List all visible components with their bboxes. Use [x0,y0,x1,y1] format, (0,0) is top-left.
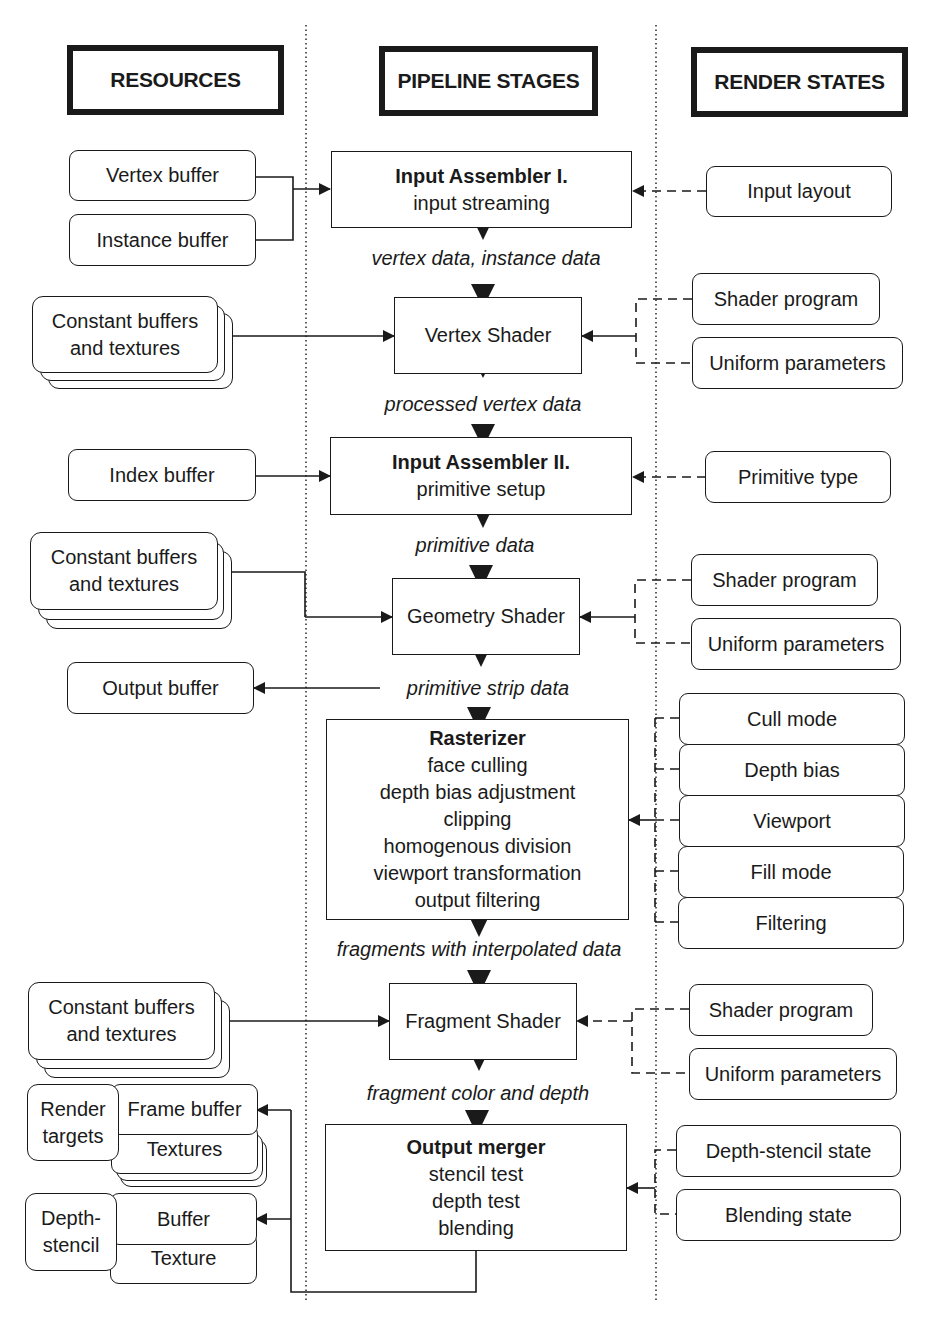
resource-label: Instance buffer [97,227,229,254]
state-label: Uniform parameters [705,1061,882,1088]
resource-label: Output buffer [102,675,218,702]
state-label: Filtering [755,910,826,937]
resource-render-targets: Render targets [27,1084,119,1161]
state-fill-mode: Fill mode [678,846,904,898]
resource-index-buffer: Index buffer [68,449,256,501]
state-label: Depth-stencil state [706,1138,872,1165]
resource-label: stencil [43,1232,100,1259]
state-label: Cull mode [747,706,837,733]
stage-line: depth test [432,1188,520,1215]
resource-label: Frame buffer [127,1096,241,1123]
flow-label-primitive-strip-data: primitive strip data [407,677,569,700]
state-label: Shader program [714,286,859,313]
state-input-layout: Input layout [706,166,892,217]
state-depth-stencil-state: Depth-stencil state [676,1125,901,1177]
stage-line: input streaming [413,190,550,217]
stage-output-merger: Output merger stencil test depth test bl… [325,1124,627,1251]
state-viewport: Viewport [679,795,905,847]
resource-label: Buffer [157,1206,210,1233]
resource-label: targets [42,1123,103,1150]
resource-output-buffer: Output buffer [67,662,254,714]
resource-label: Textures [147,1136,223,1163]
stage-line: depth bias adjustment [380,779,576,806]
stage-input-assembler-1: Input Assembler I. input streaming [331,151,632,228]
stage-title: Input Assembler I. [395,163,568,190]
flow-label-fragments-interpolated: fragments with interpolated data [337,938,622,961]
state-gs-uniform-parameters: Uniform parameters [691,618,901,670]
state-label: Shader program [712,567,857,594]
state-label: Shader program [709,997,854,1024]
state-gs-shader-program: Shader program [691,554,878,606]
state-depth-bias: Depth bias [679,744,905,796]
resource-constant-buffers-gs: Constant buffers and textures [30,532,218,610]
resource-frame-buffer: Frame buffer [111,1084,258,1135]
resource-label: and textures [69,571,179,598]
state-label: Blending state [725,1202,852,1229]
resource-label: Constant buffers [52,308,198,335]
flow-label-fragment-color-depth: fragment color and depth [367,1082,589,1105]
resource-ds-buffer: Buffer [110,1193,257,1245]
resource-constant-buffers-fs: Constant buffers and textures [28,982,215,1060]
stage-line: output filtering [415,887,541,914]
stage-input-assembler-2: Input Assembler II. primitive setup [330,437,632,515]
state-label: Uniform parameters [709,350,886,377]
state-filtering: Filtering [678,897,904,949]
stage-title: Output merger [407,1134,546,1161]
resource-instance-buffer: Instance buffer [69,214,256,266]
column-header-resources-label: RESOURCES [110,68,240,92]
state-label: Viewport [753,808,830,835]
state-label: Depth bias [744,757,840,784]
pipeline-diagram: RESOURCES PIPELINE STAGES RENDER STATES … [0,0,951,1327]
state-blending-state: Blending state [676,1189,901,1241]
stage-line: face culling [427,752,527,779]
state-fs-uniform-parameters: Uniform parameters [689,1048,897,1100]
stage-rasterizer: Rasterizer face culling depth bias adjus… [326,719,629,920]
resource-label: and textures [70,335,180,362]
resource-label: Vertex buffer [106,162,219,189]
column-header-pipeline-label: PIPELINE STAGES [398,69,580,93]
column-header-render-states: RENDER STATES [691,47,908,117]
flow-label-processed-vertex-data: processed vertex data [385,393,582,416]
stage-line: homogenous division [384,833,572,860]
resource-label: Texture [151,1245,217,1272]
stage-title: Rasterizer [429,725,526,752]
flow-label-primitive-data: primitive data [416,534,535,557]
column-header-pipeline: PIPELINE STAGES [379,46,598,116]
stage-title: Input Assembler II. [392,449,570,476]
column-header-resources: RESOURCES [67,45,284,115]
resource-label: Depth- [41,1205,101,1232]
resource-label: Render [40,1096,106,1123]
stage-title: Fragment Shader [405,1008,561,1035]
resource-label: Constant buffers [51,544,197,571]
state-vs-shader-program: Shader program [692,273,880,325]
stage-line: blending [438,1215,514,1242]
stage-line: clipping [444,806,512,833]
resource-label: Constant buffers [48,994,194,1021]
stage-vertex-shader: Vertex Shader [394,297,582,374]
resource-vertex-buffer: Vertex buffer [69,150,256,201]
state-fs-shader-program: Shader program [689,984,873,1036]
state-cull-mode: Cull mode [679,693,905,745]
state-primitive-type: Primitive type [705,451,891,503]
flow-label-vertex-instance-data: vertex data, instance data [371,247,600,270]
resource-depth-stencil: Depth- stencil [25,1193,117,1271]
stage-title: Geometry Shader [407,603,565,630]
stage-line: primitive setup [417,476,546,503]
state-vs-uniform-parameters: Uniform parameters [692,337,903,389]
resource-label: and textures [66,1021,176,1048]
resource-label: Index buffer [109,462,214,489]
stage-geometry-shader: Geometry Shader [392,578,580,655]
stage-title: Vertex Shader [425,322,552,349]
stage-fragment-shader: Fragment Shader [389,983,577,1060]
state-label: Primitive type [738,464,858,491]
stage-line: stencil test [429,1161,523,1188]
state-label: Fill mode [750,859,831,886]
stage-line: viewport transformation [374,860,582,887]
column-header-render-states-label: RENDER STATES [714,70,884,94]
state-label: Input layout [747,178,850,205]
resource-constant-buffers-vs: Constant buffers and textures [32,296,218,373]
state-label: Uniform parameters [708,631,885,658]
